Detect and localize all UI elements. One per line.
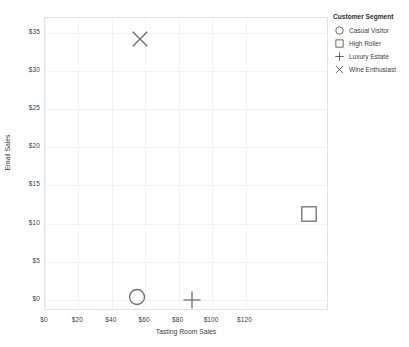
x-tick-label: $120 [225, 316, 265, 324]
y-tick-label: $30 [6, 66, 40, 74]
gridline-horizontal [45, 185, 327, 186]
y-tick-label: $0 [6, 295, 40, 303]
gridline-horizontal [45, 71, 327, 72]
gridline-horizontal [45, 262, 327, 263]
legend-items: Casual VisitorHigh RollerLuxury EstateWi… [333, 24, 409, 76]
y-tick-label: $35 [6, 28, 40, 36]
plus-icon [333, 50, 347, 63]
y-tick-label: $25 [6, 104, 40, 112]
gridline-vertical [212, 18, 213, 309]
legend: Customer Segment Casual VisitorHigh Roll… [333, 12, 409, 76]
legend-item[interactable]: Casual Visitor [333, 24, 409, 37]
plot-area [44, 17, 328, 310]
gridline-horizontal [45, 33, 327, 34]
gridline-vertical [179, 18, 180, 309]
gridline-vertical [45, 18, 46, 309]
x-axis-title: Tasting Room Sales [44, 327, 328, 336]
legend-item[interactable]: Wine Enthusiast [333, 63, 409, 76]
legend-item-label: Luxury Estate [347, 52, 389, 61]
square-icon [333, 37, 347, 50]
y-axis-title: Email Sales [3, 113, 12, 193]
legend-item[interactable]: Luxury Estate [333, 50, 409, 63]
y-tick-label: $10 [6, 219, 40, 227]
gridline-horizontal [45, 109, 327, 110]
gridline-vertical [145, 18, 146, 309]
gridline-vertical [78, 18, 79, 309]
gridline-horizontal [45, 147, 327, 148]
legend-title: Customer Segment [333, 12, 409, 21]
gridline-horizontal [45, 224, 327, 225]
gridline-vertical [112, 18, 113, 309]
legend-item-label: Wine Enthusiast [347, 65, 396, 74]
cross-icon [333, 63, 347, 76]
circle-icon [333, 24, 347, 37]
legend-item-label: Casual Visitor [347, 26, 389, 35]
legend-item-label: High Roller [347, 39, 381, 48]
scatter-plot-figure: $0$5$10$15$20$25$30$35 $0$20$40$60$80$10… [0, 0, 409, 347]
gridline-vertical [246, 18, 247, 309]
y-tick-label: $5 [6, 257, 40, 265]
legend-item[interactable]: High Roller [333, 37, 409, 50]
